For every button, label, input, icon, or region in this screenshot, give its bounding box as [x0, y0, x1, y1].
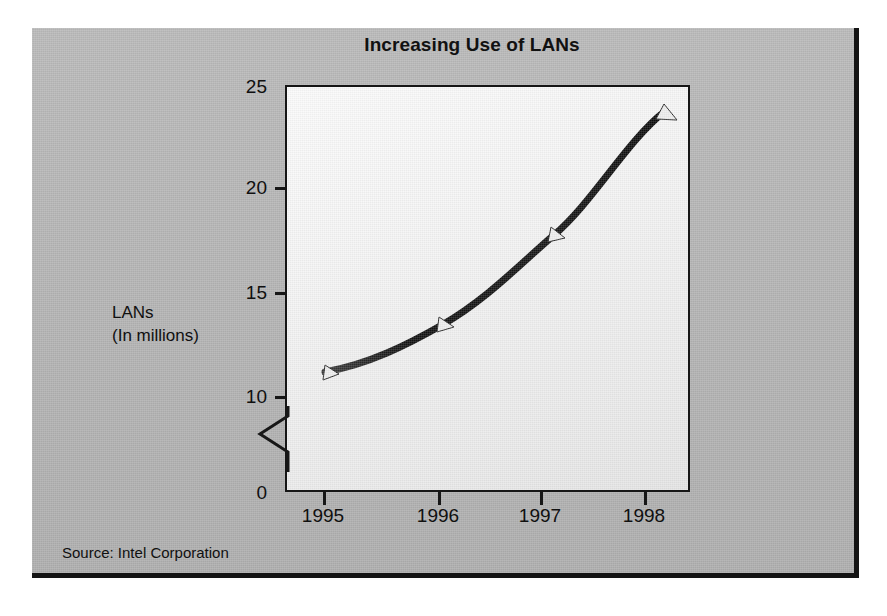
plot-area	[285, 85, 690, 492]
xtick-mark-1995	[323, 492, 326, 505]
chart-figure: Increasing Use of LANs 25 20	[0, 0, 887, 616]
ytick-label-15: 15	[213, 283, 267, 302]
source-note: Source: Intel Corporation	[62, 544, 229, 561]
series-path	[325, 112, 664, 372]
chart-title: Increasing Use of LANs	[252, 34, 692, 56]
xtick-label-1996: 1996	[398, 506, 478, 525]
xtick-mark-1997	[540, 492, 543, 505]
xtick-label-1995: 1995	[283, 506, 363, 525]
ytick-mark-15	[275, 292, 287, 295]
ytick-mark-10	[275, 396, 287, 399]
xtick-label-1997: 1997	[500, 506, 580, 525]
yaxis-title-sub: (In millions)	[112, 325, 199, 348]
yaxis-title: LANs (In millions)	[112, 302, 199, 348]
ytick-label-25: 25	[213, 77, 267, 96]
data-series-line	[287, 87, 692, 494]
ytick-label-0: 0	[213, 483, 267, 502]
xtick-mark-1998	[644, 492, 647, 505]
xtick-label-1998: 1998	[604, 506, 684, 525]
ytick-mark-20	[275, 187, 287, 190]
ytick-label-20: 20	[213, 178, 267, 197]
xtick-mark-1996	[438, 492, 441, 505]
series-markers	[323, 104, 677, 380]
axis-break-icon	[252, 404, 294, 474]
yaxis-title-main: LANs	[112, 302, 199, 325]
